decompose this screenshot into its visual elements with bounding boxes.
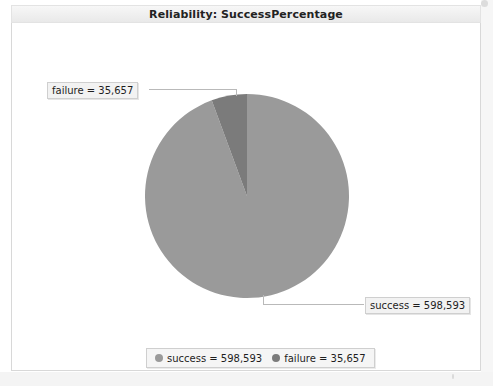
pie-slice-success[interactable] [145, 94, 349, 298]
chart-titlebar: Reliability: SuccessPercentage [11, 5, 481, 23]
page-background-bottom [0, 372, 493, 386]
success-callout-line [263, 304, 364, 305]
legend-item-success[interactable]: success = 598,593 [155, 353, 262, 364]
data-label-success: success = 598,593 [365, 297, 470, 314]
legend-label-failure: failure = 35,657 [284, 353, 365, 364]
legend-label-success: success = 598,593 [167, 353, 262, 364]
data-label-failure: failure = 35,657 [47, 82, 138, 99]
scan-artifact [452, 374, 454, 379]
page-background-right [481, 0, 493, 386]
success-callout-leader [263, 295, 264, 305]
chart-legend: success = 598,593 failure = 35,657 [146, 348, 375, 368]
failure-callout-line [149, 89, 237, 90]
chart-window: Reliability: SuccessPercentage failure =… [0, 0, 493, 386]
pie-chart[interactable] [144, 93, 350, 299]
failure-callout-leader [236, 89, 237, 96]
legend-swatch-success-icon [155, 354, 163, 362]
scan-artifact-corner [481, 0, 488, 7]
page-title: Reliability: SuccessPercentage [149, 8, 343, 21]
chart-plot-area: failure = 35,657 success = 598,593 succe… [11, 23, 481, 371]
legend-swatch-failure-icon [272, 354, 280, 362]
legend-item-failure[interactable]: failure = 35,657 [272, 353, 365, 364]
